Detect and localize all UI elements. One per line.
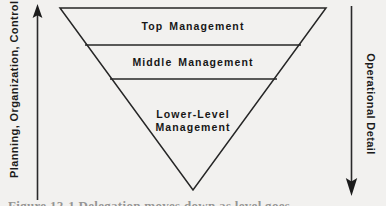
tier-label-lower-line1: Lower-Level <box>156 108 229 120</box>
tier-label-lower-line2: Management <box>0 121 386 134</box>
tier-label-middle-management: Middle Management <box>0 56 386 69</box>
tier-label-lower-level-management: Lower-Level Management <box>0 108 386 134</box>
figure-container: Planning, Organization, Control Operatio… <box>0 0 386 206</box>
figure-caption: Figure 12-1 Delegation moves down as lev… <box>8 198 308 206</box>
tier-label-top-management: Top Management <box>0 20 386 33</box>
